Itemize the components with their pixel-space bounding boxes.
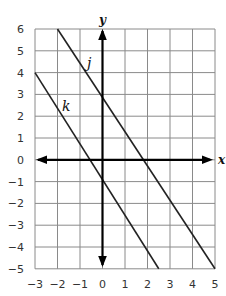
y-tick-label: −1 (8, 176, 24, 189)
grid-lines (35, 29, 215, 269)
x-tick-label: 4 (189, 278, 196, 291)
y-tick-label: 1 (17, 132, 24, 145)
x-tick-label: −3 (27, 278, 43, 291)
x-tick-label: −2 (49, 278, 65, 291)
y-tick-label: 0 (17, 154, 24, 167)
x-tick-label: 2 (144, 278, 151, 291)
x-axis-left-arrow-icon (36, 156, 47, 165)
x-tick-label: 5 (212, 278, 219, 291)
y-axis-down-arrow-icon (98, 256, 107, 267)
y-tick-label: 3 (17, 88, 24, 101)
x-tick-label: 0 (99, 278, 106, 291)
y-tick-label: 2 (17, 110, 24, 123)
y-axis-label: y (98, 13, 107, 27)
y-tick-label: −3 (8, 219, 24, 232)
x-tick-label: 3 (167, 278, 174, 291)
tick-labels: −3−2−10123456543210−1−2−3−4−5 (8, 23, 219, 291)
line-k (35, 73, 159, 269)
y-tick-label: 5 (17, 45, 24, 58)
x-axis-right-arrow-icon (202, 156, 213, 165)
line-label-j: j (84, 55, 92, 71)
y-axis-up-arrow-icon (98, 29, 107, 40)
coordinate-plane: −3−2−10123456543210−1−2−3−4−5 x y j k (0, 0, 226, 296)
y-tick-label: 6 (17, 23, 24, 36)
x-tick-label: −1 (72, 278, 88, 291)
line-label-k: k (62, 98, 70, 114)
x-tick-label: 1 (122, 278, 129, 291)
y-tick-label: −2 (8, 197, 24, 210)
x-axis-label: x (217, 153, 226, 167)
y-tick-label: −5 (8, 263, 24, 276)
y-tick-label: −4 (8, 241, 24, 254)
y-tick-label: 4 (17, 67, 24, 80)
